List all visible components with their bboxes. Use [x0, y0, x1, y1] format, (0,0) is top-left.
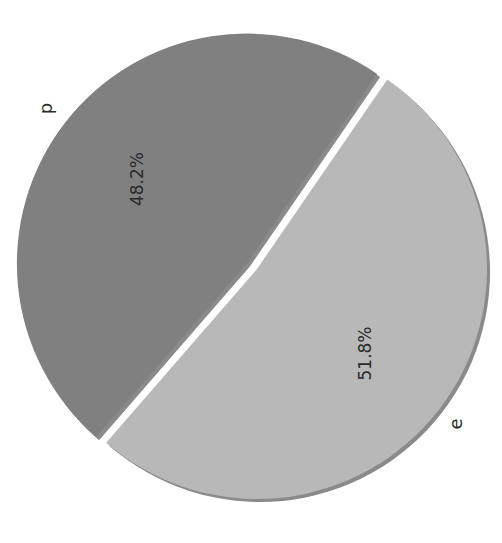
pct-label-p: 48.2%: [127, 152, 147, 206]
category-label-e: e: [445, 418, 466, 429]
pie-chart: 48.2%p51.8%e: [0, 0, 502, 543]
pie-slices: [17, 33, 490, 502]
pct-label-e: 51.8%: [355, 326, 375, 380]
category-label-p: p: [35, 103, 56, 114]
